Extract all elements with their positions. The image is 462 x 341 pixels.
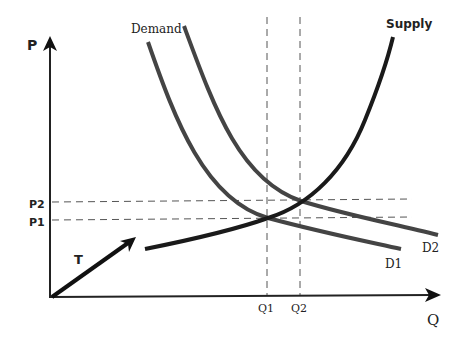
x-axis-label: Q — [427, 311, 439, 329]
shift-arrow-label: T — [74, 252, 83, 267]
y-axis-label: P — [27, 37, 37, 53]
x-axis — [50, 295, 432, 297]
demand-label: Demand — [131, 22, 182, 36]
supply-label: Supply — [386, 17, 432, 31]
q2-tick-label: Q2 — [291, 302, 307, 315]
p2-tick-label: P2 — [29, 198, 45, 211]
shift-arrow-t — [52, 237, 136, 297]
d2-label: D2 — [422, 241, 439, 255]
supply-demand-diagram: P Q Demand Supply D1 D2 P2 P1 Q1 Q2 T — [0, 0, 462, 341]
diagram-svg: P Q Demand Supply D1 D2 P2 P1 Q1 Q2 T — [0, 0, 462, 341]
d1-label: D1 — [385, 257, 402, 271]
p1-tick-label: P1 — [29, 216, 45, 229]
q1-tick-label: Q1 — [258, 302, 274, 315]
demand-curve-d2 — [184, 26, 438, 235]
guide-lines — [52, 17, 412, 296]
